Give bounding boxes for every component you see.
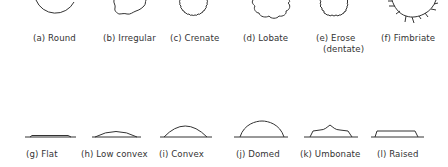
round-colony-shape xyxy=(36,0,74,13)
label-flat: (g) Flat xyxy=(26,149,58,159)
label-convex: (i) Convex xyxy=(159,149,204,159)
lobate-colony-shape xyxy=(252,0,289,18)
label-crenate: (c) Crenate xyxy=(170,33,219,43)
raised-elevation-shape xyxy=(371,131,424,137)
label-round: (a) Round xyxy=(33,33,76,43)
convex-elevation-shape xyxy=(160,126,212,137)
flat-elevation-shape xyxy=(25,136,76,138)
umbonate-elevation-shape xyxy=(304,125,358,137)
label-low-convex: (h) Low convex xyxy=(81,149,148,159)
domed-elevation-shape xyxy=(234,121,288,137)
low-convex-elevation-shape xyxy=(92,132,141,138)
label-erose: (e) Erose xyxy=(316,33,355,43)
fimbriate-colony-shape xyxy=(388,0,438,23)
crenate-colony-shape xyxy=(180,0,208,16)
label-domed: (j) Domed xyxy=(236,149,280,159)
label-fimbriate: (f) Fimbriate xyxy=(381,33,435,43)
label-lobate: (d) Lobate xyxy=(243,33,288,43)
label-erose-dentate: (dentate) xyxy=(323,44,364,54)
irregular-colony-shape xyxy=(114,0,146,14)
label-irregular: (b) Irregular xyxy=(103,33,156,43)
erose-colony-shape xyxy=(320,0,348,16)
label-raised: (l) Raised xyxy=(377,149,418,159)
label-umbonate: (k) Umbonate xyxy=(300,149,360,159)
colony-shapes-figure xyxy=(0,0,448,167)
